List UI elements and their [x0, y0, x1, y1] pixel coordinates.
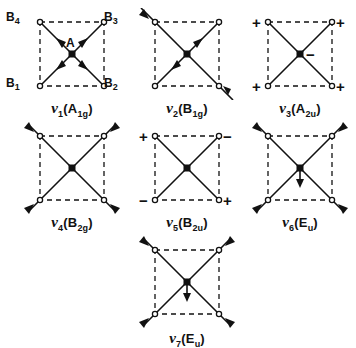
diagonal-line	[141, 8, 219, 86]
atom-b2	[329, 197, 334, 202]
displacement-arrow-b3-out	[110, 122, 120, 132]
atom-b3	[101, 133, 106, 138]
displacement-arrow-b2-out	[110, 204, 120, 214]
atom-b4	[37, 133, 42, 138]
sign-b2: +	[336, 79, 345, 94]
sign-b4: +	[252, 15, 261, 30]
atom-a-center	[69, 51, 76, 58]
atom-b1	[37, 83, 42, 88]
mode-label-nu6: ν6(Eu)	[246, 214, 354, 233]
sign-b4: +	[139, 129, 148, 144]
atom-b4	[152, 247, 157, 252]
mode-nu6-svg	[246, 122, 354, 214]
mode-diagram-nu6: ν6(Eu)	[246, 122, 354, 232]
displacement-arrow-b2-out	[225, 318, 235, 328]
atom-a-center	[297, 165, 304, 172]
mode-label-nu7: ν7(Eu)	[133, 330, 241, 348]
displacement-arrow-b2-out	[338, 204, 348, 214]
mode-diagram-nu1: B4 B3 B1 B2 A ν1(A1g)	[18, 8, 126, 118]
center-arrow-head-down	[296, 179, 304, 188]
atom-a-center	[297, 51, 304, 58]
sign-b3: +	[336, 15, 345, 30]
mode-label-nu2: ν2(B1g)	[133, 100, 241, 119]
displacement-arrow-b1-out	[252, 204, 262, 214]
displacement-arrow-b1-out	[139, 318, 149, 328]
mode-label-nu1: ν1(A1g)	[18, 100, 126, 119]
atom-b3	[216, 133, 221, 138]
mode-diagram-nu5: + − − + ν5(B2u)	[133, 122, 241, 232]
atom-b1	[152, 311, 157, 316]
displacement-arrow-b1-out	[24, 204, 34, 214]
mode-diagram-nu4: ν4(B2g)	[18, 122, 126, 232]
sign-b1: +	[252, 79, 261, 94]
displacement-arrow-b3-out	[338, 122, 348, 132]
atom-b4	[152, 19, 157, 24]
mode-diagram-nu3: + + + + − ν3(A2u)	[246, 8, 354, 118]
displacement-arrow-b4-out	[24, 122, 34, 132]
mode-label-nu4: ν4(B2g)	[18, 214, 126, 233]
vibrational-modes-figure: B4 B3 B1 B2 A ν1(A1g)	[0, 0, 356, 348]
atom-b1	[265, 83, 270, 88]
mode-nu4-svg	[18, 122, 126, 214]
displacement-arrow-b3-out	[225, 236, 235, 246]
mode-label-nu5: ν5(B2u)	[133, 214, 241, 233]
sign-b3: −	[223, 129, 232, 144]
atom-b2	[101, 197, 106, 202]
atom-b3	[329, 19, 334, 24]
atom-label-b4: B4	[6, 10, 20, 26]
mode-nu2-svg	[133, 8, 241, 100]
sign-b1: −	[139, 193, 148, 208]
atom-b4	[265, 133, 270, 138]
atom-a-center	[184, 279, 191, 286]
atom-b2	[216, 197, 221, 202]
atom-b3	[216, 247, 221, 252]
atom-b2	[216, 311, 221, 316]
sign-b2: +	[223, 193, 232, 208]
displacement-arrow-b4-out	[252, 122, 262, 132]
atom-b1	[37, 197, 42, 202]
center-arrow-head-down	[183, 293, 191, 302]
atom-b1	[265, 197, 270, 202]
mode-label-nu3: ν3(A2u)	[246, 100, 354, 119]
atom-b4	[152, 133, 157, 138]
atom-b1	[152, 83, 157, 88]
mode-diagram-nu7: ν7(Eu)	[133, 236, 241, 348]
atom-b3	[216, 19, 221, 24]
sign-center-a: −	[306, 47, 315, 62]
atom-a-center	[184, 165, 191, 172]
atom-b4	[265, 19, 270, 24]
atom-b2	[329, 83, 334, 88]
atom-label-b2: B2	[104, 76, 118, 92]
atom-b2	[216, 83, 221, 88]
atom-b4	[37, 19, 42, 24]
atom-a-center	[69, 165, 76, 172]
mode-nu7-svg	[133, 236, 241, 328]
mode-diagram-nu2: ν2(B1g)	[133, 8, 241, 118]
atom-label-b3: B3	[104, 10, 118, 26]
atom-b1	[152, 197, 157, 202]
atom-b3	[329, 133, 334, 138]
atom-label-a: A	[66, 36, 75, 50]
atom-a-center	[184, 51, 191, 58]
displacement-arrow-b4-out	[139, 236, 149, 246]
atom-label-b1: B1	[6, 76, 20, 92]
